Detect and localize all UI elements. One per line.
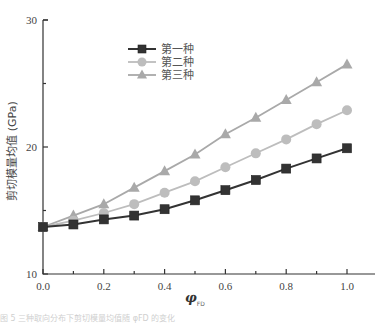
- x-tick-label: 1.0: [340, 280, 354, 292]
- circle-marker: [251, 148, 261, 158]
- triangle-marker: [159, 165, 170, 175]
- circle-marker: [190, 176, 200, 186]
- legend: 第一种第二种第三种: [128, 42, 194, 82]
- square-marker: [282, 164, 291, 173]
- square-marker: [160, 205, 169, 214]
- legend-label: 第一种: [161, 42, 194, 56]
- circle-marker: [129, 199, 139, 209]
- legend-item: 第二种: [128, 55, 194, 69]
- y-tick-label: 10: [26, 268, 38, 280]
- square-marker: [130, 211, 139, 220]
- square-marker: [99, 215, 108, 224]
- x-tick-label: 0.0: [36, 280, 50, 292]
- x-tick-label: 0.8: [279, 280, 293, 292]
- y-axis-label: 剪切模量均值 (GPa): [5, 101, 19, 200]
- circle-marker: [138, 58, 147, 67]
- circle-marker: [312, 119, 322, 129]
- square-marker: [312, 154, 321, 163]
- triangle-marker: [190, 149, 201, 159]
- triangle-marker: [98, 198, 109, 208]
- circle-marker: [281, 134, 291, 144]
- x-tick-label: 0.2: [97, 280, 111, 292]
- square-marker: [69, 220, 78, 229]
- circle-marker: [342, 105, 352, 115]
- square-marker: [138, 45, 146, 53]
- series-circle: [38, 105, 352, 232]
- circle-marker: [160, 188, 170, 198]
- x-axis-label: φFD: [185, 290, 205, 307]
- legend-item: 第一种: [128, 42, 194, 56]
- figure-caption: 图 5 三种取向分布下剪切模量均值随 φFD 的变化: [0, 312, 389, 323]
- circle-marker: [220, 162, 230, 172]
- square-marker: [251, 176, 260, 185]
- axes: [43, 20, 375, 274]
- triangle-marker: [129, 182, 140, 192]
- triangle-marker: [220, 128, 231, 138]
- triangle-marker: [311, 76, 322, 86]
- legend-label: 第三种: [161, 68, 194, 82]
- triangle-marker: [137, 70, 147, 79]
- legend-item: 第三种: [128, 68, 194, 82]
- square-marker: [343, 144, 352, 153]
- triangle-marker: [250, 112, 261, 122]
- series-layer: [38, 58, 353, 232]
- square-marker: [191, 196, 200, 205]
- x-tick-label: 0.4: [158, 280, 172, 292]
- y-tick-label: 30: [26, 14, 38, 26]
- y-tick-label: 20: [26, 141, 38, 153]
- x-tick-label: 0.6: [219, 280, 233, 292]
- square-marker: [221, 186, 230, 195]
- legend-label: 第二种: [161, 55, 194, 69]
- triangle-marker: [281, 94, 292, 104]
- x-axis-label-sub: FD: [197, 300, 205, 307]
- square-marker: [39, 223, 48, 232]
- series-line: [43, 148, 347, 227]
- axis-lines: [43, 20, 375, 274]
- x-axis-label-main: φ: [185, 290, 197, 305]
- triangle-marker: [342, 58, 353, 68]
